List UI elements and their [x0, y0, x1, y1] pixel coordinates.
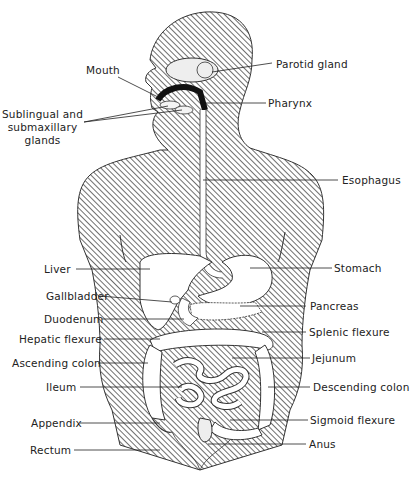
label-duodenum: Duodenum	[44, 313, 103, 325]
label-esophagus: Esophagus	[342, 174, 401, 186]
label-splenic-flexure: Splenic flexure	[309, 326, 390, 338]
label-hepatic-flexure: Hepatic flexure	[19, 333, 102, 345]
rectum-shape	[198, 418, 212, 442]
label-pancreas: Pancreas	[310, 300, 359, 312]
submaxillary-gland-shape	[175, 106, 193, 114]
label-ascending-colon: Ascending colon	[12, 357, 101, 369]
label-sublingual-submaxillary-glands: Sublingual and submaxillary glands	[2, 108, 83, 147]
label-parotid-gland: Parotid gland	[276, 58, 348, 70]
label-pharynx: Pharynx	[268, 97, 312, 109]
gallbladder-shape	[170, 296, 180, 304]
label-appendix: Appendix	[31, 417, 82, 429]
label-sigmoid-flexure: Sigmoid flexure	[310, 414, 395, 426]
label-ileum: Ileum	[46, 381, 76, 393]
label-descending-colon: Descending colon	[313, 381, 410, 393]
parotid-gland-shape	[166, 58, 218, 82]
label-rectum: Rectum	[30, 444, 71, 456]
label-mouth: Mouth	[86, 64, 120, 76]
label-anus: Anus	[309, 438, 336, 450]
label-gallbladder: Gallbladder	[46, 290, 109, 302]
label-jejunum: Jejunum	[312, 352, 356, 364]
label-stomach: Stomach	[334, 262, 382, 274]
label-liver: Liver	[44, 263, 71, 275]
